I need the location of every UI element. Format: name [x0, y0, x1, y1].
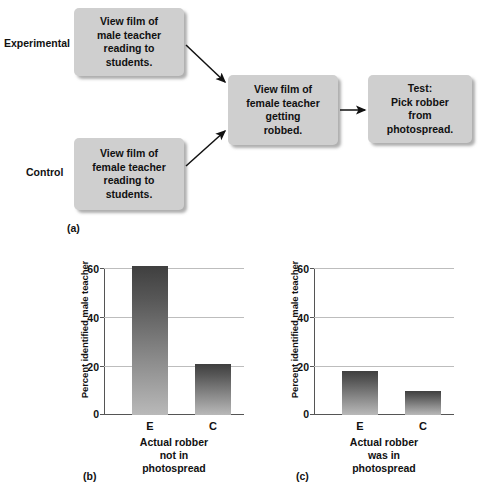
- ytick-mark-b-20: [100, 366, 104, 367]
- ytick-mark-c-0: [310, 414, 314, 415]
- gridline-b-40: [104, 317, 244, 318]
- flowchart-arrows: [0, 0, 480, 245]
- arrow-experimental-to-robbery: [186, 45, 225, 82]
- xtick-label-c-E: E: [356, 420, 363, 432]
- ytick-label-c-20: 20: [297, 361, 309, 373]
- xtick-label-b-E: E: [146, 420, 153, 432]
- ytick-label-b-20: 20: [87, 361, 99, 373]
- ytick-mark-c-20: [310, 366, 314, 367]
- bar-b-experimental: [132, 266, 168, 415]
- arrow-control-to-robbery: [186, 131, 225, 166]
- gridline-c-40: [314, 317, 454, 318]
- bar-c-experimental: [342, 371, 378, 415]
- y-axis-title-b: Percent identified male teacher: [79, 255, 90, 405]
- y-axis-title-c: Percent identified male teacher: [289, 255, 300, 405]
- ytick-label-c-0: 0: [303, 408, 309, 420]
- ytick-mark-c-40: [310, 317, 314, 318]
- ytick-label-b-40: 40: [87, 312, 99, 324]
- ytick-label-b-60: 60: [87, 263, 99, 275]
- bar-chart-panel-b: Percent identified male teacher 60 40 20…: [52, 258, 272, 488]
- caption-panel-b: (b): [83, 470, 96, 482]
- ytick-label-c-60: 60: [297, 263, 309, 275]
- ytick-mark-b-0: [100, 414, 104, 415]
- bar-c-control: [405, 391, 441, 416]
- gridline-b-60: [104, 268, 244, 269]
- ytick-mark-b-40: [100, 317, 104, 318]
- x-axis-title-c: Actual robber was in photospread: [314, 436, 454, 475]
- flowchart-panel-a: Experimental Control View film of male t…: [0, 0, 480, 245]
- ytick-label-b-0: 0: [93, 408, 99, 420]
- xtick-label-b-C: C: [209, 420, 217, 432]
- bar-chart-panel-c: Percent identified male teacher 60 40 20…: [262, 258, 480, 488]
- caption-panel-a: (a): [67, 222, 80, 234]
- gridline-c-60: [314, 268, 454, 269]
- caption-panel-c: (c): [296, 470, 309, 482]
- xtick-label-c-C: C: [419, 420, 427, 432]
- x-axis-title-b: Actual robber not in photospread: [104, 436, 244, 475]
- ytick-label-c-40: 40: [297, 312, 309, 324]
- plot-area-b: 60 40 20 0 E C: [104, 268, 244, 415]
- ytick-mark-c-60: [310, 268, 314, 269]
- ytick-mark-b-60: [100, 268, 104, 269]
- gridline-c-20: [314, 366, 454, 367]
- plot-area-c: 60 40 20 0 E C: [314, 268, 454, 415]
- bar-b-control: [195, 364, 231, 415]
